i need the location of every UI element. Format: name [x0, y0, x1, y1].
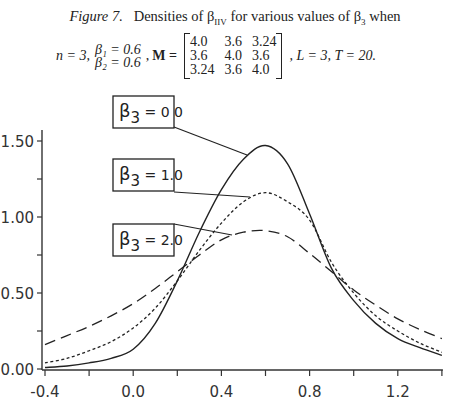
curve-solid [45, 146, 442, 368]
x-tick-label: 0.8 [298, 383, 322, 401]
y-tick-label: 1.00 [1, 209, 34, 227]
leader-line [174, 192, 250, 197]
x-tick-label: 1.2 [386, 383, 410, 401]
x-tick-label: -0.4 [30, 383, 59, 401]
density-chart: 0.000.501.001.50-0.40.00.40.81.2β3 = 0 0… [0, 0, 470, 413]
curve-dashed [45, 230, 442, 344]
x-tick-label: 0.0 [121, 383, 145, 401]
y-tick-label: 0.00 [1, 361, 34, 379]
x-tick-label: 0.4 [209, 383, 233, 401]
y-tick-label: 1.50 [1, 133, 34, 151]
curve-dotted [45, 193, 442, 363]
y-tick-label: 0.50 [1, 285, 34, 303]
leader-line [174, 127, 247, 155]
